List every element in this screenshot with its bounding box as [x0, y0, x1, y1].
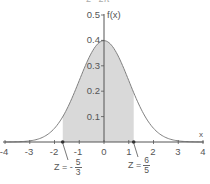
z-right-denominator: 5 — [144, 166, 149, 175]
y-tick-label: 0.2 — [87, 86, 100, 96]
z-right-pointer — [134, 143, 138, 157]
x-tick-label: -3 — [25, 147, 33, 157]
z-left-fraction: 5 3 — [75, 158, 82, 177]
y-axis-label: f(x) — [107, 10, 121, 20]
y-tick-label: 0.1 — [87, 112, 100, 122]
x-tick-label: 0 — [101, 147, 106, 157]
x-axis-label: x — [199, 131, 203, 139]
x-tick-label: -2 — [50, 147, 58, 157]
y-tick-label: 0.3 — [87, 61, 100, 71]
x-tick-label: 3 — [175, 147, 180, 157]
z-left-annotation: Z = - 5 3 — [54, 158, 82, 177]
x-tick-label: 2 — [150, 147, 155, 157]
x-tick-label: -4 — [0, 147, 8, 157]
z-right-fraction: 6 5 — [143, 156, 150, 175]
y-tick-label: 0.5 — [87, 10, 100, 20]
z-right-annotation: Z = 6 5 — [128, 156, 150, 175]
z-left-prefix: Z = - — [54, 162, 73, 172]
z-left-denominator: 3 — [76, 168, 81, 177]
x-tick-label: 4 — [200, 147, 205, 157]
z-right-prefix: Z = — [128, 160, 141, 170]
y-tick-label: 0.4 — [87, 35, 100, 45]
x-tick-label: -1 — [74, 147, 82, 157]
partial-top-formula: 2 2π — [86, 0, 110, 4]
